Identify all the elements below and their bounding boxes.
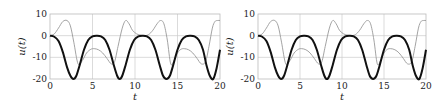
x-tick-label: 15 — [172, 81, 184, 91]
x-axis-label: t — [340, 91, 345, 102]
y-axis-label: u(t) — [16, 37, 27, 55]
x-tick-label: 10 — [336, 81, 348, 91]
x-tick-label: 5 — [297, 81, 303, 91]
y-tick-label: -20 — [33, 74, 48, 84]
chart-panel-right: 05101520100-10-20tu(t) — [224, 9, 432, 102]
y-tick-label: 0 — [41, 31, 47, 41]
y-tick-label: 10 — [244, 9, 256, 19]
y-tick-label: -20 — [241, 74, 256, 84]
figure: 05101520100-10-20tu(t) 05101520100-10-20… — [0, 0, 447, 105]
chart-panel-left: 05101520100-10-20tu(t) — [16, 9, 226, 102]
y-tick-label: 0 — [249, 31, 255, 41]
x-tick-label: 0 — [47, 81, 53, 91]
y-tick-label: -10 — [241, 52, 256, 62]
x-axis-label: t — [133, 91, 138, 102]
y-tick-label: -10 — [33, 52, 48, 62]
x-tick-label: 5 — [90, 81, 96, 91]
y-tick-label: 10 — [36, 9, 48, 19]
y-axis-label: u(t) — [224, 37, 235, 55]
x-tick-label: 15 — [378, 81, 390, 91]
x-tick-label: 20 — [214, 81, 226, 91]
x-tick-label: 20 — [420, 81, 432, 91]
x-tick-label: 10 — [129, 81, 141, 91]
x-tick-label: 0 — [255, 81, 261, 91]
